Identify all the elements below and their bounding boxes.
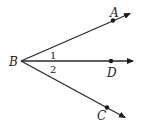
label-b: B bbox=[8, 55, 18, 69]
angle-2-label: 2 bbox=[50, 64, 56, 75]
label-d: D bbox=[106, 66, 117, 80]
angle-diagram: A B D C 1 2 bbox=[0, 0, 141, 124]
point-d bbox=[109, 59, 113, 63]
angle-1-label: 1 bbox=[50, 50, 56, 61]
label-c: C bbox=[97, 109, 106, 123]
label-a: A bbox=[109, 6, 119, 20]
